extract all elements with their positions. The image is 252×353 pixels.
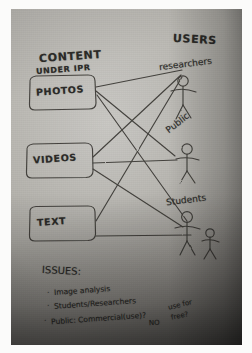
heading-content-sub: UNDER IPR: [36, 63, 91, 76]
edge-videos-students: [93, 169, 183, 227]
issues-item-1: Image analysis: [54, 284, 111, 297]
node-box-photos: [29, 75, 96, 110]
user-label-students: Students: [166, 193, 207, 208]
issues-item-3: Public: Commercial(use)?: [51, 311, 146, 327]
issues-heading: ISSUES:: [42, 264, 82, 277]
issues-item-2-bullet: ·: [47, 301, 50, 310]
screenshot-root: CONTENT UNDER IPR USERS PHOTOS VIDEOS TE…: [0, 0, 252, 353]
annotation-free: free?: [170, 310, 189, 321]
photo-vignette: [11, 9, 242, 345]
paper-sheet: CONTENT UNDER IPR USERS PHOTOS VIDEOS TE…: [11, 9, 242, 345]
stick-figure-students-1: [175, 212, 200, 255]
edge-videos-researchers: [93, 75, 181, 157]
heading-users: USERS: [173, 32, 217, 47]
node-label-text: TEXT: [37, 215, 67, 228]
annotation-no: NO: [149, 319, 160, 328]
issues-item-3-bullet: ·: [44, 316, 47, 325]
node-box-videos: [26, 143, 93, 178]
edge-text-students: [96, 235, 191, 236]
edge-photos-researchers: [96, 70, 182, 87]
handdrawn-ink-layer: [11, 9, 242, 345]
edge-text-researchers: [96, 77, 182, 221]
paper-grain-texture: [11, 9, 242, 345]
user-label-public: Public: [164, 111, 191, 135]
issues-item-1-bullet: ·: [47, 288, 50, 297]
issues-item-2: Students/Researchers: [54, 296, 136, 311]
node-label-photos: PHOTOS: [36, 83, 85, 97]
node-box-text: [29, 206, 95, 241]
stick-figure-researchers: [171, 76, 196, 119]
edge-photos-students: [97, 95, 187, 221]
stick-figure-students-2: [202, 229, 219, 259]
heading-content: CONTENT: [39, 48, 102, 65]
stick-figure-public: [176, 144, 199, 183]
edge-photos-public: [96, 91, 175, 156]
user-label-researchers: researchers: [159, 56, 213, 72]
node-label-videos: VIDEOS: [33, 151, 77, 165]
edge-videos-public: [93, 160, 177, 163]
annotation-use-for: use for: [167, 298, 192, 312]
